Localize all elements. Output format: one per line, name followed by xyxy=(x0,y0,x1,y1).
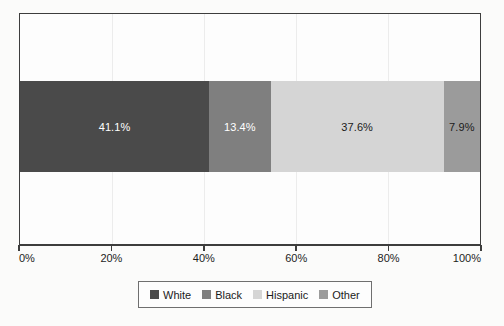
legend-item-white[interactable]: White xyxy=(150,289,191,301)
legend-item-other[interactable]: Other xyxy=(319,289,360,301)
legend-item-black[interactable]: Black xyxy=(202,289,242,301)
x-axis-tick-label: 0% xyxy=(19,252,35,264)
legend-swatch-icon xyxy=(150,290,159,299)
x-axis-tick-labels: 0%20%40%60%80%100% xyxy=(19,252,481,268)
x-axis-tick xyxy=(295,245,297,251)
legend-swatch-icon xyxy=(202,290,211,299)
bar-segment-black[interactable]: 13.4% xyxy=(209,81,271,172)
x-axis-tick xyxy=(18,245,20,251)
legend-item-label: Hispanic xyxy=(266,289,308,301)
plot-area: 41.1% 13.4% 37.6% 7.9% xyxy=(19,13,481,245)
x-axis-ticks xyxy=(19,245,481,251)
bar-segment-white[interactable]: 41.1% xyxy=(20,81,209,172)
legend-swatch-icon xyxy=(253,290,262,299)
bar-segment-other[interactable]: 7.9% xyxy=(444,81,480,172)
stacked-bar: 41.1% 13.4% 37.6% 7.9% xyxy=(20,81,480,172)
x-axis-tick xyxy=(388,245,390,251)
x-axis-tick xyxy=(111,245,113,251)
x-axis-tick-label: 40% xyxy=(193,252,215,264)
legend-item-hispanic[interactable]: Hispanic xyxy=(253,289,308,301)
x-axis-tick xyxy=(203,245,205,251)
bar-segment-white-value: 41.1% xyxy=(99,121,131,133)
legend-item-label: Other xyxy=(332,289,360,301)
x-axis-tick-label: 80% xyxy=(378,252,400,264)
x-axis-tick-label: 20% xyxy=(100,252,122,264)
bar-segment-black-value: 13.4% xyxy=(224,121,256,133)
bar-segment-hispanic-value: 37.6% xyxy=(341,121,373,133)
bar-segment-hispanic[interactable]: 37.6% xyxy=(271,81,444,172)
legend-item-label: White xyxy=(163,289,191,301)
legend-swatch-icon xyxy=(319,290,328,299)
chart-legend: WhiteBlackHispanicOther xyxy=(138,281,372,308)
legend-item-label: Black xyxy=(215,289,242,301)
x-axis-tick xyxy=(480,245,482,251)
x-axis-tick-label: 100% xyxy=(453,252,481,264)
x-axis-tick-label: 60% xyxy=(285,252,307,264)
stacked-bar-chart-figure: 41.1% 13.4% 37.6% 7.9% 0%20%40%60%80%100… xyxy=(0,0,504,326)
bar-segment-other-value: 7.9% xyxy=(449,121,474,133)
